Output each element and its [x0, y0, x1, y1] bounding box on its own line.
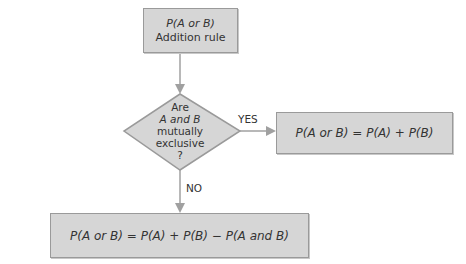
decision-line: exclusive — [140, 137, 220, 149]
no-result-box: P(A or B) = P(A) + P(B) − P(A and B) — [50, 213, 309, 258]
start-box: P(A or B) Addition rule — [143, 8, 238, 53]
decision-line: ? — [140, 149, 220, 161]
arrow-down-icon — [175, 84, 185, 94]
yes-label: YES — [238, 113, 258, 125]
decision-line: A and B — [140, 113, 220, 125]
arrow-down-icon — [175, 203, 185, 213]
decision-line: Are — [140, 101, 220, 113]
decision-text: Are A and B mutually exclusive ? — [140, 101, 220, 161]
start-box-title: P(A or B) — [166, 17, 215, 31]
yes-formula: P(A or B) = P(A) + P(B) — [296, 126, 434, 140]
no-formula: P(A or B) = P(A) + P(B) − P(A and B) — [70, 229, 289, 243]
arrow-right-icon — [266, 126, 276, 136]
yes-result-box: P(A or B) = P(A) + P(B) — [276, 112, 453, 154]
decision-line: mutually — [140, 125, 220, 137]
start-box-subtitle: Addition rule — [155, 31, 225, 45]
no-label: NO — [186, 182, 202, 194]
